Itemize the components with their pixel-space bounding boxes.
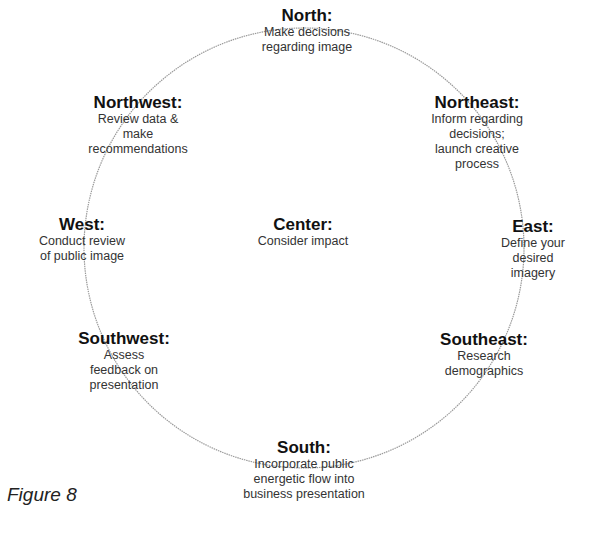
node-description: Assess feedback on presentation: [78, 348, 170, 393]
node-southwest: Southwest: Assess feedback on presentati…: [78, 329, 170, 393]
node-northeast: Northeast: Inform regarding decisions; l…: [431, 93, 523, 172]
node-description: Conduct review of public image: [39, 234, 125, 264]
node-title: Southwest:: [78, 329, 170, 348]
node-description: Inform regarding decisions; launch creat…: [431, 112, 523, 172]
node-title: Northeast:: [431, 93, 523, 112]
node-title: Northwest:: [88, 93, 187, 112]
node-description: Make decisions regarding image: [262, 25, 352, 55]
node-northwest: Northwest: Review data & make recommenda…: [88, 93, 187, 157]
node-southeast: Southeast: Research demographics: [440, 330, 528, 379]
node-south: South: Incorporate public energetic flow…: [243, 438, 365, 502]
figure-caption: Figure 8: [7, 484, 77, 506]
node-title: North:: [262, 6, 352, 25]
node-east: East: Define your desired imagery: [497, 217, 569, 281]
node-description: Incorporate public energetic flow into b…: [243, 457, 365, 502]
node-description: Consider impact: [258, 234, 348, 249]
node-description: Review data & make recommendations: [88, 112, 187, 157]
node-title: Southeast:: [440, 330, 528, 349]
node-center: Center: Consider impact: [258, 215, 348, 249]
node-title: West:: [39, 215, 125, 234]
node-north: North: Make decisions regarding image: [262, 6, 352, 55]
node-west: West: Conduct review of public image: [39, 215, 125, 264]
node-title: Center:: [258, 215, 348, 234]
node-description: Define your desired imagery: [497, 236, 569, 281]
node-title: South:: [243, 438, 365, 457]
node-description: Research demographics: [440, 349, 528, 379]
node-title: East:: [497, 217, 569, 236]
